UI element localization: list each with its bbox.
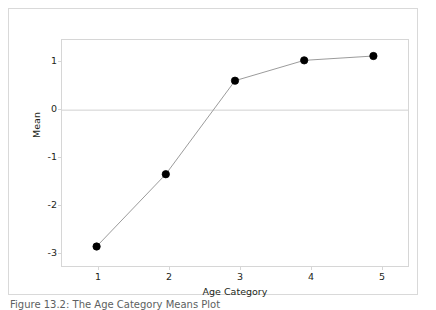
x-tick-mark — [240, 267, 241, 270]
x-tick-label: 4 — [296, 271, 326, 282]
x-tick-mark — [169, 267, 170, 270]
x-axis-title: Age Category — [61, 286, 409, 297]
x-tick-label: 2 — [154, 271, 184, 282]
x-axis-ticks: 1 2 3 4 5 — [9, 9, 419, 296]
x-tick-mark — [311, 267, 312, 270]
figure-caption: Figure 13.2: The Age Category Means Plot — [10, 299, 430, 310]
x-tick-mark — [98, 267, 99, 270]
figure-frame: Mean 1 0 -1 -2 -3 1 2 3 4 — [8, 8, 418, 295]
x-tick-label: 5 — [367, 271, 397, 282]
x-tick-label: 1 — [83, 271, 113, 282]
x-tick-label: 3 — [225, 271, 255, 282]
x-tick-mark — [382, 267, 383, 270]
